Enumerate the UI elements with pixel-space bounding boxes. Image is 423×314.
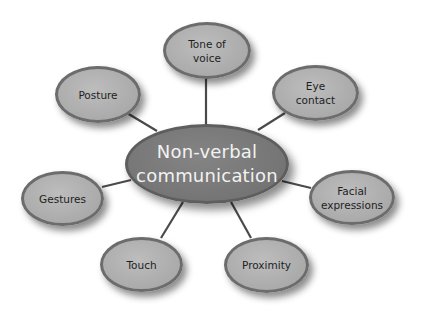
connector-gestures bbox=[102, 180, 131, 187]
node-label: Eye contact bbox=[296, 79, 335, 107]
node-label: Facial expressions bbox=[321, 184, 383, 212]
connector-facial-expressions bbox=[282, 181, 311, 188]
center-node-non-verbal-communication: Non-verbal communication bbox=[125, 124, 289, 204]
node-label: Touch bbox=[126, 258, 156, 272]
node-touch: Touch bbox=[100, 237, 183, 292]
connector-eye-contact bbox=[258, 113, 285, 130]
node-facial-expressions: Facial expressions bbox=[309, 170, 395, 225]
node-eye-contact: Eye contact bbox=[272, 65, 359, 121]
node-proximity: Proximity bbox=[224, 237, 309, 293]
connector-touch bbox=[161, 202, 183, 238]
connector-proximity bbox=[231, 202, 251, 238]
center-node-label: Non-verbal communication bbox=[136, 140, 278, 188]
connector-posture bbox=[127, 113, 157, 131]
node-label: Gestures bbox=[39, 192, 86, 206]
node-label: Proximity bbox=[242, 258, 291, 272]
node-label: Tone of voice bbox=[188, 37, 226, 65]
node-label: Posture bbox=[78, 88, 117, 102]
node-posture: Posture bbox=[55, 66, 141, 123]
node-tone-of-voice: Tone of voice bbox=[163, 22, 251, 79]
node-gestures: Gestures bbox=[21, 171, 104, 226]
